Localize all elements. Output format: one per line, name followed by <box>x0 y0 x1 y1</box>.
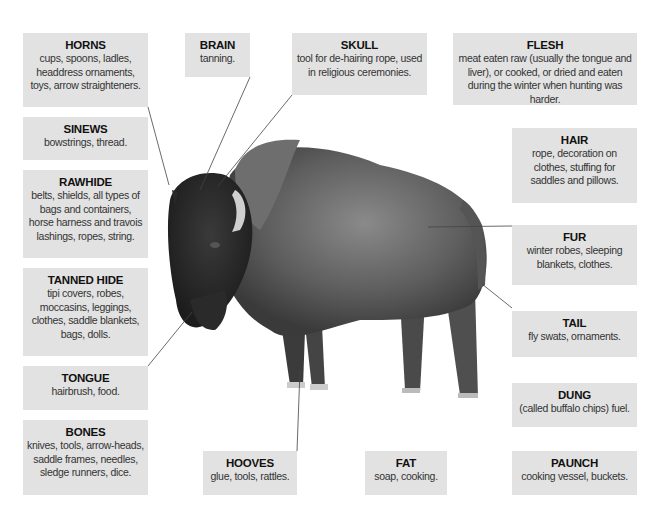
label-flesh-title: FLESH <box>457 38 633 52</box>
label-fat-desc: soap, cooking. <box>369 470 443 484</box>
label-flesh: FLESH meat eaten raw (usually the tongue… <box>453 33 637 105</box>
label-tongue-title: TONGUE <box>27 371 144 385</box>
label-hair-title: HAIR <box>516 133 633 147</box>
label-bones: BONES knives, tools, arrow-heads, saddle… <box>23 420 148 495</box>
label-rawhide: RAWHIDE belts, shields, all types of bag… <box>23 170 148 258</box>
label-brain-desc: tanning. <box>189 52 246 66</box>
label-tail: TAIL fly swats, ornaments. <box>512 311 637 357</box>
label-skull-title: SKULL <box>296 38 423 52</box>
label-fat: FAT soap, cooking. <box>365 451 447 495</box>
label-hooves: HOOVES glue, tools, rattles. <box>203 451 297 495</box>
label-sinews: SINEWS bowstrings, thread. <box>23 117 148 160</box>
label-rawhide-title: RAWHIDE <box>27 175 144 189</box>
label-dung-desc: (called buffalo chips) fuel. <box>516 402 633 416</box>
label-tail-desc: fly swats, ornaments. <box>516 330 633 344</box>
label-dung-title: DUNG <box>516 388 633 402</box>
label-sinews-desc: bowstrings, thread. <box>27 136 144 150</box>
label-skull-desc: tool for de-hairing rope, used in religi… <box>296 52 423 79</box>
label-brain-title: BRAIN <box>189 38 246 52</box>
label-horns-desc: cups, spoons, ladles, headdress ornament… <box>27 52 144 93</box>
label-tanned-hide: TANNED HIDE tipi covers, robes, moccasin… <box>23 268 148 356</box>
label-tail-title: TAIL <box>516 316 633 330</box>
label-sinews-title: SINEWS <box>27 122 144 136</box>
label-hair: HAIR rope, decoration on clothes, stuffi… <box>512 128 637 203</box>
label-skull: SKULL tool for de-hairing rope, used in … <box>292 33 427 95</box>
label-fur: FUR winter robes, sleeping blankets, clo… <box>512 225 637 285</box>
label-tongue-desc: hairbrush, food. <box>27 385 144 399</box>
label-bones-title: BONES <box>27 425 144 439</box>
label-paunch-title: PAUNCH <box>516 456 633 470</box>
label-hooves-title: HOOVES <box>207 456 293 470</box>
label-hooves-desc: glue, tools, rattles. <box>207 470 293 484</box>
label-fur-desc: winter robes, sleeping blankets, clothes… <box>516 244 633 271</box>
label-bones-desc: knives, tools, arrow-heads, saddle frame… <box>27 439 144 480</box>
label-horns-title: HORNS <box>27 38 144 52</box>
label-dung: DUNG (called buffalo chips) fuel. <box>512 383 637 427</box>
label-tongue: TONGUE hairbrush, food. <box>23 366 148 410</box>
label-hair-desc: rope, decoration on clothes, stuffing fo… <box>516 147 633 188</box>
label-flesh-desc: meat eaten raw (usually the tongue and l… <box>457 52 633 106</box>
label-rawhide-desc: belts, shields, all types of bags and co… <box>27 189 144 243</box>
label-paunch-desc: cooking vessel, buckets. <box>516 470 633 484</box>
label-fat-title: FAT <box>369 456 443 470</box>
label-brain: BRAIN tanning. <box>185 33 250 77</box>
label-paunch: PAUNCH cooking vessel, buckets. <box>512 451 637 495</box>
label-fur-title: FUR <box>516 230 633 244</box>
label-tanned-hide-desc: tipi covers, robes, moccasins, leggings,… <box>27 287 144 341</box>
label-horns: HORNS cups, spoons, ladles, headdress or… <box>23 33 148 107</box>
label-tanned-hide-title: TANNED HIDE <box>27 273 144 287</box>
